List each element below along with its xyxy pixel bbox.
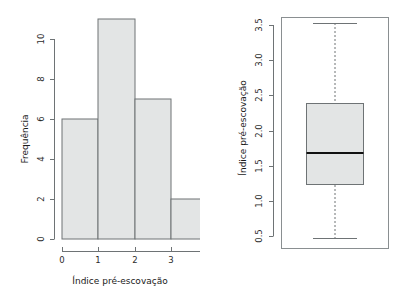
boxplot-ytick-1-0: 1.0 xyxy=(254,194,264,208)
histogram-y-axis: 10 8 6 4 2 0 xyxy=(36,34,55,242)
histogram-bar-1-2 xyxy=(98,19,135,239)
histogram-ytick-8: 8 xyxy=(36,76,46,81)
histogram-bar-0-1 xyxy=(62,119,98,239)
histogram-xtick-1: 1 xyxy=(95,255,100,265)
histogram-ytick-0: 0 xyxy=(36,236,46,241)
histogram-xtick-0: 0 xyxy=(59,255,64,265)
histogram-xtick-3: 3 xyxy=(168,255,173,265)
boxplot-y-axis-title: Índice pré-escovação xyxy=(237,80,248,176)
boxplot-ytick-1-5: 1.5 xyxy=(254,159,264,173)
histogram-ytick-10: 10 xyxy=(36,34,46,45)
boxplot-chart: 3.5 3.0 2.5 2.0 1.5 1.0 0.5 Índice pré-e… xyxy=(200,0,401,296)
histogram-xtick-2: 2 xyxy=(132,255,137,265)
histogram-chart: 10 8 6 4 2 0 0 1 2 3 4 Frequência Índice… xyxy=(0,0,200,296)
histogram-ytick-4: 4 xyxy=(36,156,46,161)
histogram-bar-2-3 xyxy=(135,99,171,239)
histogram-ytick-2: 2 xyxy=(36,196,46,201)
boxplot-ytick-2-5: 2.5 xyxy=(254,88,264,102)
boxplot-ytick-0-5: 0.5 xyxy=(254,229,264,243)
boxplot-panel: 3.5 3.0 2.5 2.0 1.5 1.0 0.5 Índice pré-e… xyxy=(200,0,401,296)
histogram-x-axis: 0 1 2 3 4 xyxy=(59,247,200,265)
boxplot-ytick-2-0: 2.0 xyxy=(254,124,264,138)
histogram-bar-3-4 xyxy=(171,199,200,239)
histogram-x-axis-title: Índice pré-escovação xyxy=(72,275,168,286)
histogram-y-axis-title: Frequência xyxy=(20,114,30,163)
boxplot-y-axis: 3.5 3.0 2.5 2.0 1.5 1.0 0.5 xyxy=(254,18,274,243)
boxplot-ytick-3-5: 3.5 xyxy=(254,18,264,32)
boxplot-box xyxy=(307,104,364,185)
histogram-ytick-6: 6 xyxy=(36,116,46,121)
histogram-bars xyxy=(62,19,200,239)
histogram-panel: 10 8 6 4 2 0 0 1 2 3 4 Frequência Índice… xyxy=(0,0,200,296)
boxplot-ytick-3-0: 3.0 xyxy=(254,53,264,67)
